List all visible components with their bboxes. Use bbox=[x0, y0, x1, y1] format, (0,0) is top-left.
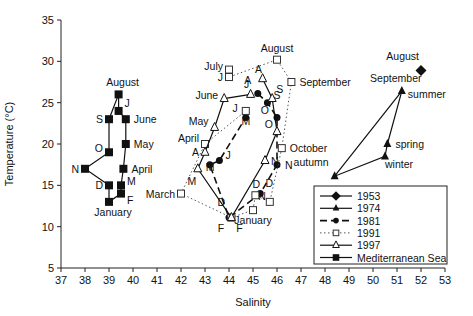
point-label: F bbox=[218, 222, 224, 234]
x-tick-label: 46 bbox=[271, 274, 283, 286]
data-point-square-open bbox=[274, 56, 281, 63]
point-label: May bbox=[134, 138, 155, 150]
point-label: J bbox=[125, 97, 130, 109]
point-label: F bbox=[127, 194, 133, 206]
x-tick-label: 53 bbox=[439, 274, 451, 286]
point-label: J bbox=[244, 78, 249, 90]
legend: 19531974198119911997Mediterranean Sea bbox=[314, 186, 447, 264]
point-label: O bbox=[261, 104, 269, 116]
point-label: January bbox=[94, 206, 132, 218]
data-point-square-filled bbox=[115, 90, 123, 98]
data-point-triangle-open bbox=[211, 122, 219, 130]
legend-entry-label: 1953 bbox=[357, 190, 381, 202]
point-label: N bbox=[285, 159, 293, 171]
x-tick-label: 50 bbox=[367, 274, 379, 286]
point-label: O bbox=[95, 142, 103, 154]
x-tick-label: 38 bbox=[79, 274, 91, 286]
y-tick-label: 25 bbox=[42, 97, 54, 109]
data-point-triangle-filled bbox=[398, 86, 406, 94]
data-point-square-open bbox=[250, 207, 257, 214]
point-label: S bbox=[276, 83, 283, 95]
x-tick-label: 52 bbox=[415, 274, 427, 286]
chart: 3738394041424344454647484950515253510152… bbox=[0, 0, 473, 316]
point-label: D bbox=[218, 196, 226, 208]
series-mediterranean-sea bbox=[81, 90, 130, 205]
data-point-triangle-open bbox=[259, 74, 267, 82]
x-tick-label: 44 bbox=[223, 274, 235, 286]
x-tick-label: 42 bbox=[175, 274, 187, 286]
x-axis-label: Salinity bbox=[235, 296, 271, 308]
x-tick-label: 51 bbox=[391, 274, 403, 286]
legend-entry-label: 1974 bbox=[357, 202, 381, 214]
x-tick-label: 43 bbox=[199, 274, 211, 286]
point-label: autumn bbox=[294, 156, 329, 168]
data-point-square-open bbox=[242, 107, 249, 114]
data-point-square-open bbox=[178, 190, 185, 197]
point-label: spring bbox=[395, 138, 424, 150]
x-tick-label: 47 bbox=[295, 274, 307, 286]
y-tick-label: 35 bbox=[42, 14, 54, 26]
data-point-square-filled bbox=[105, 198, 113, 206]
x-tick-label: 37 bbox=[55, 274, 67, 286]
point-label: J bbox=[225, 149, 230, 161]
x-tick-label: 48 bbox=[319, 274, 331, 286]
data-point-square-filled bbox=[105, 115, 113, 123]
point-label: October bbox=[290, 142, 328, 154]
point-label: May bbox=[189, 115, 210, 127]
point-label: M bbox=[206, 161, 215, 173]
legend-entry-label: 1991 bbox=[357, 227, 381, 239]
data-point-square-filled bbox=[117, 181, 125, 189]
data-point-square-filled bbox=[333, 254, 340, 261]
x-tick-label: 39 bbox=[103, 274, 115, 286]
data-point-square-filled bbox=[105, 181, 113, 189]
data-point-circle-filled bbox=[216, 157, 223, 164]
y-axis-label: Temperature (°C) bbox=[3, 102, 15, 186]
legend-entry-label: 1997 bbox=[357, 239, 381, 251]
data-point-triangle-open bbox=[247, 89, 255, 97]
legend-entry-label: 1981 bbox=[357, 215, 381, 227]
point-label: April bbox=[131, 163, 152, 175]
point-label: N bbox=[271, 155, 279, 167]
point-label: D bbox=[265, 177, 273, 189]
data-point-triangle-open bbox=[201, 147, 209, 155]
data-point-square-open bbox=[266, 198, 273, 205]
point-label: M bbox=[127, 175, 136, 187]
y-tick-label: 20 bbox=[42, 138, 54, 150]
x-tick-label: 49 bbox=[343, 274, 355, 286]
data-point-square-open bbox=[333, 230, 339, 236]
y-tick-label: 10 bbox=[42, 221, 54, 233]
point-label: D bbox=[95, 179, 103, 191]
point-label: June bbox=[134, 113, 157, 125]
point-label: A bbox=[255, 63, 262, 75]
point-label: September bbox=[370, 72, 422, 84]
y-tick-label: 5 bbox=[48, 262, 54, 274]
point-label: September bbox=[299, 76, 351, 88]
point-label: summer bbox=[408, 88, 446, 100]
data-point-square-filled bbox=[115, 107, 123, 115]
x-tick-label: 41 bbox=[151, 274, 163, 286]
point-label: N bbox=[258, 190, 266, 202]
data-point-circle-filled bbox=[333, 218, 339, 224]
data-point-square-filled bbox=[105, 148, 113, 156]
data-point-square-open bbox=[278, 145, 285, 152]
data-point-square-filled bbox=[122, 140, 130, 148]
point-label: N bbox=[71, 163, 79, 175]
data-point-triangle-open bbox=[261, 156, 269, 164]
point-label: M bbox=[187, 175, 196, 187]
point-label: winter bbox=[384, 158, 414, 170]
data-point-square-filled bbox=[81, 165, 89, 173]
point-label: O bbox=[265, 118, 273, 130]
point-label: D bbox=[252, 178, 260, 190]
point-label: J bbox=[233, 102, 238, 114]
data-point-square-filled bbox=[117, 190, 125, 198]
data-point-square-filled bbox=[119, 165, 127, 173]
point-label: June bbox=[195, 89, 218, 101]
point-label: A bbox=[192, 146, 199, 158]
data-point-triangle-filled bbox=[383, 139, 391, 147]
data-point-triangle-open bbox=[273, 127, 281, 135]
data-point-square-open bbox=[226, 66, 233, 73]
x-tick-label: 40 bbox=[127, 274, 139, 286]
point-label: April bbox=[178, 132, 199, 144]
point-label: F bbox=[236, 222, 242, 234]
y-tick-label: 15 bbox=[42, 179, 54, 191]
